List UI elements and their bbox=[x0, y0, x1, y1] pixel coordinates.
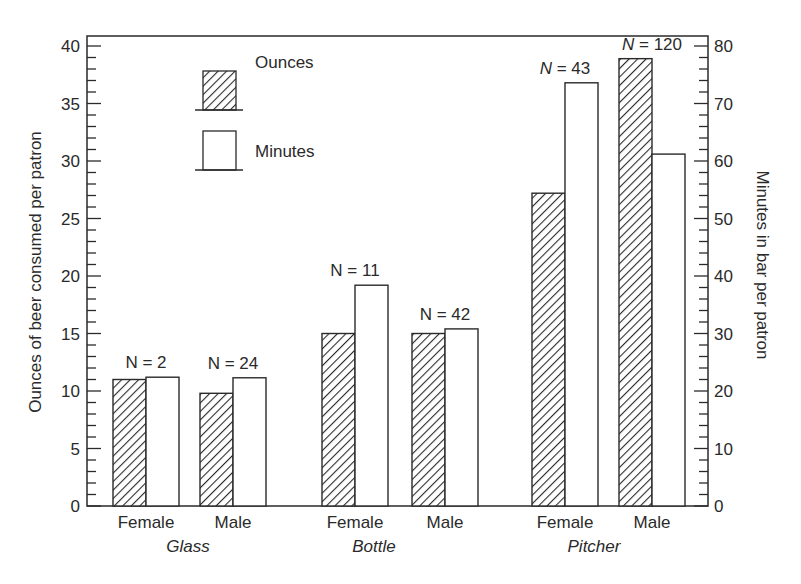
left-tick-label: 35 bbox=[61, 95, 80, 114]
right-tick-label: 30 bbox=[714, 325, 733, 344]
left-tick-label: 0 bbox=[71, 497, 80, 516]
group-label: Pitcher bbox=[568, 537, 622, 556]
left-tick-label: 20 bbox=[61, 267, 80, 286]
x-axis-labels: FemaleMaleFemaleMaleFemaleMale bbox=[118, 513, 671, 532]
sample-size-label: N = 43 bbox=[540, 59, 591, 78]
bar-ounces bbox=[619, 59, 652, 506]
right-tick-label: 20 bbox=[714, 382, 733, 401]
legend-label-minutes: Minutes bbox=[255, 142, 315, 161]
sample-size-label: N = 120 bbox=[622, 35, 682, 54]
x-tick-label: Female bbox=[327, 513, 384, 532]
left-tick-label: 40 bbox=[61, 37, 80, 56]
bar-ounces bbox=[412, 334, 445, 507]
bar-minutes bbox=[355, 285, 388, 506]
left-axis-ticks bbox=[87, 46, 101, 506]
right-axis-title: Minutes in bar per patron bbox=[753, 171, 772, 360]
beer-consumption-chart: 0510152025303540 01020304050607080 N = 2… bbox=[0, 0, 801, 584]
right-axis-ticks bbox=[694, 46, 708, 506]
bar-ounces bbox=[322, 334, 355, 507]
left-tick-label: 30 bbox=[61, 152, 80, 171]
bar-ounces bbox=[113, 380, 146, 507]
right-tick-label: 10 bbox=[714, 440, 733, 459]
left-tick-label: 10 bbox=[61, 382, 80, 401]
right-tick-label: 80 bbox=[714, 37, 733, 56]
white-swatch-icon bbox=[203, 131, 236, 170]
right-tick-label: 60 bbox=[714, 152, 733, 171]
left-tick-label: 25 bbox=[61, 210, 80, 229]
left-tick-label: 15 bbox=[61, 325, 80, 344]
bar-minutes bbox=[233, 378, 266, 506]
bar-minutes bbox=[652, 154, 685, 506]
bar-minutes bbox=[146, 377, 179, 506]
group-labels: GlassBottlePitcher bbox=[166, 537, 622, 556]
sample-size-label: N = 24 bbox=[208, 354, 259, 373]
x-tick-label: Male bbox=[215, 513, 252, 532]
group-label: Bottle bbox=[352, 537, 395, 556]
x-tick-label: Female bbox=[537, 513, 594, 532]
sample-size-label: N = 11 bbox=[330, 261, 379, 280]
bar-ounces bbox=[200, 393, 233, 506]
hatched-swatch-icon bbox=[203, 71, 236, 110]
legend: Ounces Minutes bbox=[195, 53, 315, 170]
right-tick-label: 70 bbox=[714, 95, 733, 114]
right-tick-label: 0 bbox=[714, 497, 723, 516]
x-tick-label: Male bbox=[634, 513, 671, 532]
right-tick-label: 40 bbox=[714, 267, 733, 286]
left-axis-title: Ounces of beer consumed per patron bbox=[26, 131, 45, 413]
group-label: Glass bbox=[166, 537, 210, 556]
sample-size-label: N = 42 bbox=[420, 305, 471, 324]
legend-label-ounces: Ounces bbox=[255, 53, 314, 72]
x-tick-label: Male bbox=[427, 513, 464, 532]
left-axis-tick-labels: 0510152025303540 bbox=[61, 37, 80, 516]
bar-ounces bbox=[532, 193, 565, 506]
bar-minutes bbox=[565, 83, 598, 506]
bars bbox=[113, 59, 685, 506]
left-tick-label: 5 bbox=[71, 440, 80, 459]
legend-item-ounces: Ounces bbox=[195, 53, 314, 110]
right-tick-label: 50 bbox=[714, 210, 733, 229]
right-axis-tick-labels: 01020304050607080 bbox=[714, 37, 733, 516]
x-tick-label: Female bbox=[118, 513, 175, 532]
bar-minutes bbox=[445, 329, 478, 506]
plot-frame bbox=[87, 36, 708, 506]
sample-size-label: N = 2 bbox=[125, 353, 166, 372]
legend-item-minutes: Minutes bbox=[195, 131, 315, 170]
